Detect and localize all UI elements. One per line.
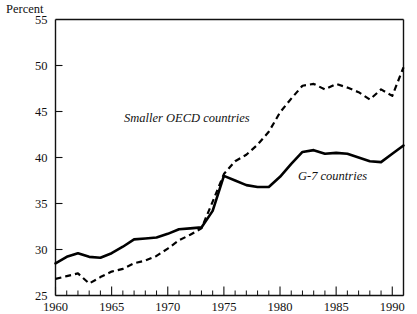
y-tick-label: 30 — [35, 243, 48, 257]
x-tick-label: 1990 — [380, 300, 405, 314]
series-label-g7-countries: G-7 countries — [298, 169, 367, 183]
series-label-smaller-oecd-countries: Smaller OECD countries — [124, 111, 250, 125]
series-line-g7-countries — [56, 146, 404, 264]
x-tick-label: 1985 — [324, 300, 349, 314]
x-tick-label: 1970 — [155, 300, 180, 314]
y-axis-tick-labels: 25303540455055 — [35, 13, 48, 303]
x-axis-tick-labels: 1960196519701975198019851990 — [43, 300, 405, 314]
chart-container: 25303540455055 1960196519701975198019851… — [0, 0, 417, 314]
y-axis-title: Percent — [6, 2, 44, 16]
x-tick-label: 1965 — [99, 300, 124, 314]
y-axis-ticks — [56, 66, 63, 250]
y-tick-label: 40 — [35, 151, 48, 165]
x-tick-label: 1960 — [43, 300, 68, 314]
y-tick-label: 45 — [35, 105, 48, 119]
y-tick-label: 35 — [35, 197, 48, 211]
x-axis-ticks — [56, 287, 404, 296]
x-tick-label: 1975 — [211, 300, 236, 314]
x-tick-label: 1980 — [268, 300, 293, 314]
y-tick-label: 50 — [35, 59, 48, 73]
line-chart: 25303540455055 1960196519701975198019851… — [0, 0, 417, 314]
